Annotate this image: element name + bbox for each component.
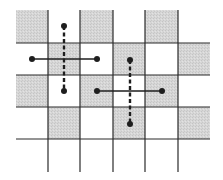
shaded-cell	[80, 10, 113, 43]
shaded-cell	[145, 10, 178, 43]
endpoint-dot	[127, 121, 133, 127]
endpoint-dot	[94, 88, 100, 94]
shaded-cell	[178, 43, 210, 75]
endpoint-dot	[94, 56, 100, 62]
endpoint-dot	[61, 23, 67, 29]
shaded-cell	[48, 107, 80, 139]
endpoint-dot	[61, 88, 67, 94]
endpoint-dot	[159, 88, 165, 94]
shaded-cell	[16, 10, 48, 43]
endpoint-dot	[127, 57, 133, 63]
shaded-cell	[16, 75, 48, 107]
shaded-cell	[178, 107, 210, 139]
checkerboard-cross-diagram	[0, 0, 223, 180]
endpoint-dot	[29, 56, 35, 62]
